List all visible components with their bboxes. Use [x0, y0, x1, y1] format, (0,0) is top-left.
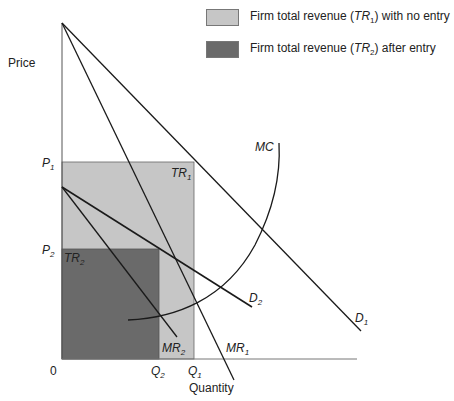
mc-label: MC	[255, 140, 274, 154]
x-axis-label: Quantity	[189, 381, 234, 395]
origin-label: 0	[50, 364, 57, 378]
d1-label: D1	[355, 311, 368, 327]
d2-label: D2	[249, 291, 263, 307]
y-axis-label: Price	[8, 56, 36, 70]
p1-label: P1	[42, 156, 54, 172]
q2-label: Q2	[151, 364, 165, 380]
monopoly-entry-diagram: Price Quantity 0 P1 P2 Q2 Q1 TR1 TR2 MR2…	[0, 0, 454, 401]
p2-label: P2	[42, 243, 55, 259]
tr2-area	[62, 249, 159, 359]
q1-label: Q1	[188, 364, 202, 380]
mr1-label: MR1	[226, 341, 249, 357]
